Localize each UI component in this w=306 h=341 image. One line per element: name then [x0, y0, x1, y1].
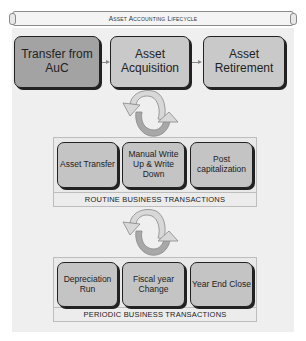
box-label: Depreciation Run	[58, 275, 117, 295]
box-label: Asset Retirement	[204, 48, 284, 76]
box-label: Asset Acquisition	[111, 48, 189, 76]
box-fiscal-year-change: Fiscal year Change	[122, 262, 185, 307]
box-asset-transfer: Asset Transfer	[57, 142, 118, 188]
box-transfer-from-auc: Transfer from AuC	[14, 36, 100, 88]
box-post-capitalization: Post capitalization	[190, 142, 253, 188]
box-manual-write-up-down: Manual Write Up & Write Down	[122, 142, 185, 188]
cycle-arrows-icon	[118, 86, 182, 140]
box-label: Asset Transfer	[60, 160, 115, 170]
box-year-end-close: Year End Close	[190, 262, 253, 307]
box-asset-acquisition: Asset Acquisition	[110, 36, 190, 88]
diagram-title: Asset Accounting Lifecycle	[109, 15, 198, 22]
cycle-arrows-icon	[118, 205, 182, 259]
connector-arrow	[102, 62, 108, 63]
box-label: Fiscal year Change	[123, 275, 184, 295]
box-depreciation-run: Depreciation Run	[57, 262, 118, 307]
title-banner: Asset Accounting Lifecycle	[12, 11, 294, 26]
box-asset-retirement: Asset Retirement	[203, 36, 285, 88]
box-label: Transfer from AuC	[15, 48, 99, 76]
box-label: Post capitalization	[191, 155, 252, 175]
box-label: Manual Write Up & Write Down	[123, 150, 184, 179]
box-label: Year End Close	[192, 280, 251, 290]
connector-arrow	[192, 62, 200, 63]
routine-transactions-label: ROUTINE BUSINESS TRANSACTIONS	[54, 192, 256, 206]
periodic-transactions-label: PERIODIC BUSINESS TRANSACTIONS	[54, 307, 256, 321]
